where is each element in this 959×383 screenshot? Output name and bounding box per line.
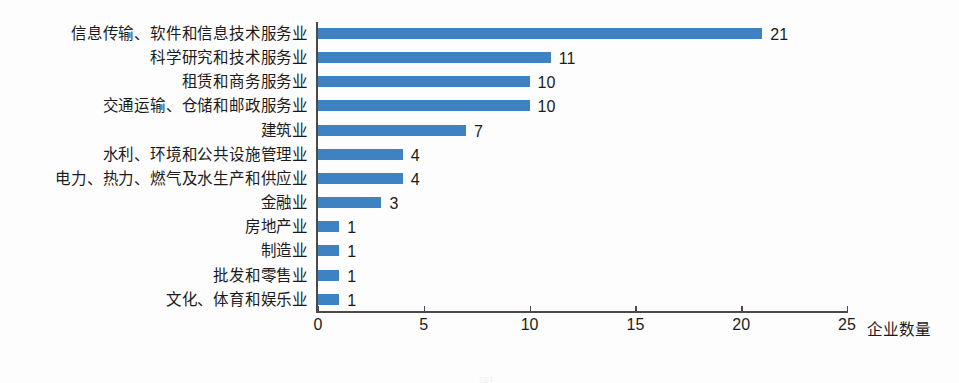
y-axis-line (316, 22, 318, 313)
category-label: 科学研究和技术服务业 (150, 46, 308, 70)
chart-rows: 信息传输、软件和信息技术服务业21科学研究和技术服务业11租赁和商务服务业10交… (0, 22, 959, 312)
bar-chart: 信息传输、软件和信息技术服务业21科学研究和技术服务业11租赁和商务服务业10交… (0, 0, 959, 383)
chart-row: 科学研究和技术服务业11 (0, 46, 959, 70)
chart-row: 制造业1 (0, 239, 959, 263)
bar-value-label: 21 (770, 22, 788, 46)
bar (318, 28, 762, 39)
bar-value-label: 11 (559, 46, 576, 70)
chart-row: 电力、热力、燃气及水生产和供应业4 (0, 167, 959, 191)
bar-value-label: 1 (347, 239, 356, 263)
chart-row: 租赁和商务服务业10 (0, 70, 959, 94)
bar-value-label: 3 (389, 191, 398, 215)
bar (318, 52, 551, 63)
x-tick (530, 306, 531, 312)
category-label: 水利、环境和公共设施管理业 (103, 143, 308, 167)
bar-value-label: 1 (347, 215, 356, 239)
x-tick (318, 306, 319, 312)
category-label: 建筑业 (261, 119, 308, 143)
x-tick-label: 25 (838, 316, 856, 334)
chart-row: 信息传输、软件和信息技术服务业21 (0, 22, 959, 46)
x-tick (635, 306, 636, 312)
bar-value-label: 10 (538, 70, 556, 94)
bar (318, 197, 381, 208)
bar (318, 100, 530, 111)
chart-row: 批发和零售业1 (0, 264, 959, 288)
x-tick (847, 306, 848, 312)
category-label: 金融业 (261, 191, 308, 215)
bar (318, 173, 403, 184)
bar-value-label: 1 (347, 264, 356, 288)
x-tick-label: 10 (521, 316, 539, 334)
chart-row: 建筑业7 (0, 119, 959, 143)
category-label: 批发和零售业 (213, 264, 308, 288)
x-tick (741, 306, 742, 312)
category-label: 制造业 (261, 239, 308, 263)
chart-row: 房地产业1 (0, 215, 959, 239)
category-label: 房地产业 (245, 215, 308, 239)
figure-caption: 图 (236, 372, 736, 383)
category-label: 租赁和商务服务业 (182, 70, 308, 94)
bar (318, 245, 339, 256)
bar-value-label: 1 (347, 288, 356, 312)
category-label: 信息传输、软件和信息技术服务业 (71, 22, 308, 46)
bar-value-label: 10 (538, 94, 556, 118)
chart-row: 金融业3 (0, 191, 959, 215)
bar (318, 221, 339, 232)
x-tick-label: 20 (732, 316, 750, 334)
bar (318, 270, 339, 281)
chart-row: 文化、体育和娱乐业1 (0, 288, 959, 312)
x-tick-label: 15 (626, 316, 644, 334)
bar (318, 149, 403, 160)
category-label: 电力、热力、燃气及水生产和供应业 (55, 167, 308, 191)
x-axis-title: 企业数量 (867, 317, 931, 339)
bar (318, 294, 339, 305)
x-tick-label: 5 (419, 316, 428, 334)
x-tick-label: 0 (314, 316, 323, 334)
bar (318, 125, 466, 136)
bar-value-label: 4 (411, 167, 420, 191)
bar-value-label: 4 (411, 143, 420, 167)
category-label: 交通运输、仓储和邮政服务业 (103, 94, 308, 118)
chart-row: 交通运输、仓储和邮政服务业10 (0, 94, 959, 118)
bar-value-label: 7 (474, 119, 483, 143)
x-tick (424, 306, 425, 312)
chart-row: 水利、环境和公共设施管理业4 (0, 143, 959, 167)
x-axis-line (316, 311, 848, 313)
category-label: 文化、体育和娱乐业 (166, 288, 308, 312)
bar (318, 76, 530, 87)
